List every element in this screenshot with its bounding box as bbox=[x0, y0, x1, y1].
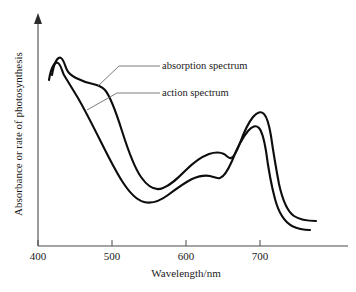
x-tick-label-700: 700 bbox=[252, 250, 269, 262]
label-action-spectrum: action spectrum bbox=[162, 87, 229, 98]
x-axis-title: Wavelength/nm bbox=[151, 267, 221, 279]
leader-line-absorption bbox=[98, 66, 160, 86]
figure-container: 400 500 600 700 Wavelength/nm Absorbance… bbox=[0, 0, 356, 292]
x-tick-label-600: 600 bbox=[178, 250, 195, 262]
x-tick-label-500: 500 bbox=[104, 250, 121, 262]
spectrum-chart: 400 500 600 700 Wavelength/nm Absorbance… bbox=[0, 0, 356, 292]
y-axis-arrow-icon bbox=[34, 13, 42, 24]
leader-line-action bbox=[87, 93, 160, 110]
x-axis bbox=[38, 240, 348, 246]
x-tick-label-400: 400 bbox=[30, 250, 47, 262]
curve-absorption-spectrum bbox=[52, 58, 316, 221]
y-axis-title: Absorbance or rate of photosynthesis bbox=[12, 52, 24, 216]
y-axis bbox=[34, 13, 42, 246]
label-absorption-spectrum: absorption spectrum bbox=[162, 60, 247, 71]
